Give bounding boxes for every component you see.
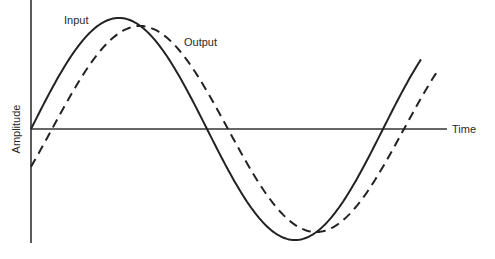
output-label: Output xyxy=(184,36,217,48)
y-axis-label: Amplitude xyxy=(10,105,22,154)
x-axis-label: Time xyxy=(452,123,476,135)
chart: Input Output Time Amplitude xyxy=(0,0,495,259)
input-label: Input xyxy=(64,14,88,26)
